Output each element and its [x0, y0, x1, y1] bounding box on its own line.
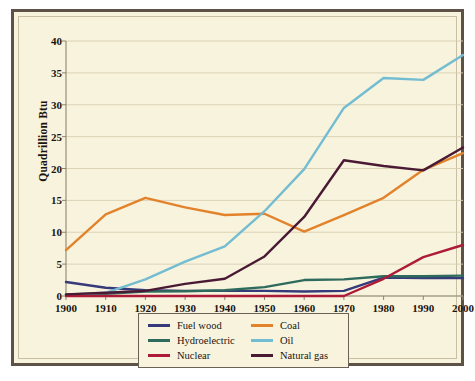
figure-inner-frame: Quadrillion Btu 0510152025303540 1900191… — [18, 16, 457, 359]
legend-label: Natural gas — [280, 350, 328, 361]
legend-color-swatch — [148, 339, 170, 342]
legend-item[interactable]: Natural gas — [251, 350, 359, 361]
series-line-natural-gas — [66, 147, 463, 294]
legend-color-swatch — [251, 354, 273, 357]
series-line-oil — [66, 55, 463, 295]
legend-color-swatch — [148, 354, 170, 357]
legend-label: Oil — [280, 335, 293, 346]
figure-outer-frame: Quadrillion Btu 0510152025303540 1900191… — [11, 9, 464, 366]
legend-item[interactable]: Oil — [251, 335, 359, 346]
legend-color-swatch — [251, 324, 273, 327]
legend-label: Coal — [280, 320, 300, 331]
legend-color-swatch — [251, 339, 273, 342]
series-line-fuel-wood — [66, 278, 463, 292]
legend-item[interactable]: Fuel wood — [148, 320, 251, 331]
legend-item[interactable]: Coal — [251, 320, 359, 331]
plot-area: Quadrillion Btu 0510152025303540 1900191… — [19, 17, 472, 374]
legend-item[interactable]: Hydroelectric — [148, 335, 251, 346]
legend-item[interactable]: Nuclear — [148, 350, 251, 361]
legend-grid: Fuel woodCoalHydroelectricOilNuclearNatu… — [148, 318, 341, 363]
data-series-lines — [66, 55, 463, 296]
chart-legend: Fuel woodCoalHydroelectricOilNuclearNatu… — [138, 313, 349, 368]
legend-color-swatch — [148, 324, 170, 327]
energy-consumption-figure: Quadrillion Btu 0510152025303540 1900191… — [0, 0, 475, 381]
legend-label: Nuclear — [177, 350, 210, 361]
legend-label: Hydroelectric — [177, 335, 235, 346]
legend-label: Fuel wood — [177, 320, 222, 331]
